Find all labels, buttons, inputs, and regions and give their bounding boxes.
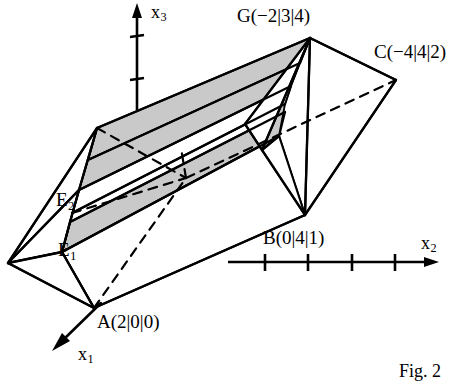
figure-caption: Fig. 2 (399, 362, 441, 380)
axis-x1-line (62, 303, 101, 341)
point-label-b: B(0|4|1) (263, 228, 324, 247)
axis-x2-arrowhead (424, 257, 439, 267)
point-label-c: C(−4|4|2) (374, 42, 446, 61)
axis-x3-arrowhead (132, 3, 142, 18)
plane-label-e2-base: E (56, 189, 68, 210)
axis-label-x3-subscript: 3 (160, 10, 167, 24)
plane-label-e1: E1 (58, 240, 77, 263)
axis-label-x3: x3 (151, 3, 167, 24)
axis-x3-tick-1 (130, 78, 144, 80)
prism-right-endcap-gcb (305, 38, 396, 215)
axis-label-x2-base: x (421, 233, 430, 253)
plane-label-e2: E2 (56, 190, 75, 213)
plane-label-e1-subscript: 1 (70, 248, 77, 263)
point-label-a: A(2|0|0) (97, 312, 159, 331)
axis-x1 (62, 303, 101, 341)
plane-label-e1-base: E (58, 239, 70, 260)
plane-label-e2-subscript: 2 (68, 198, 75, 213)
axis-x2 (228, 254, 428, 271)
axis-label-x1-subscript: 1 (87, 352, 94, 366)
axis-label-x3-base: x (151, 2, 160, 22)
axis-x3-tick-2 (130, 35, 144, 37)
point-label-g: G(−2|3|4) (237, 6, 310, 25)
figure-container: G(−2|3|4) C(−4|4|2) B(0|4|1) A(2|0|0) E2… (0, 0, 472, 387)
axis-x3 (130, 12, 144, 110)
axis-label-x2: x2 (421, 234, 437, 255)
axis-label-x1: x1 (78, 345, 94, 366)
axis-label-x1-base: x (78, 344, 87, 364)
axis-label-x2-subscript: 2 (430, 241, 437, 255)
